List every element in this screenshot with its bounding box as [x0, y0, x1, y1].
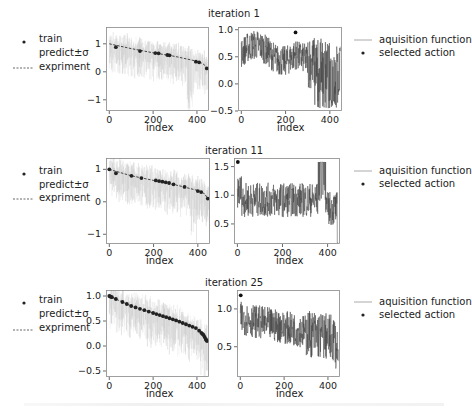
y-tick-label: 0.5 — [214, 218, 229, 229]
line-icon — [353, 300, 373, 304]
row-title-1: iteration 1 — [208, 8, 260, 19]
y-tick-label: 1.0 — [218, 24, 233, 35]
x-axis-label: index — [276, 255, 303, 266]
legend-predict: predict±σ — [39, 308, 89, 319]
legend-selected: selected action — [379, 47, 455, 58]
predict-band — [109, 32, 207, 111]
legend-expriment: expriment — [39, 322, 90, 333]
selected-dot-icon — [359, 180, 367, 188]
row-title-3: iteration 25 — [205, 277, 263, 288]
legend-selected: selected action — [379, 309, 455, 320]
x-axis-label: index — [146, 122, 173, 133]
legend-expriment: expriment — [39, 61, 90, 72]
y-tick-label: 0.5 — [86, 315, 101, 326]
y-tick-label: 0.0 — [86, 340, 101, 351]
y-tick-label: 0.0 — [218, 78, 233, 89]
y-tick-label: 1.5 — [214, 161, 229, 172]
plot-panel-2 — [238, 27, 342, 111]
x-axis-label: index — [146, 255, 173, 266]
y-tick-label: −1 — [87, 228, 101, 239]
plot-panel-4 — [234, 158, 340, 244]
line-icon — [353, 38, 373, 42]
y-tick-label: −0.5 — [78, 365, 101, 376]
selected-action — [236, 160, 240, 164]
predict-band — [109, 158, 208, 244]
dashed-line-icon — [12, 197, 34, 201]
selected-action — [239, 293, 243, 297]
y-tick-label: 1 — [95, 38, 101, 49]
x-tick-label: 0 — [106, 247, 112, 258]
plot-panel-5 — [106, 290, 209, 377]
x-tick-label: 400 — [321, 114, 339, 125]
x-tick-label: 0 — [238, 114, 244, 125]
x-axis-label: index — [146, 388, 173, 399]
legend-aquisition: aquisition function — [379, 34, 472, 45]
legend-aquisition: aquisition function — [379, 165, 472, 176]
train-dot-icon — [20, 299, 28, 307]
x-axis-label: index — [276, 388, 303, 399]
x-tick-label: 0 — [234, 247, 240, 258]
line-icon — [353, 169, 373, 173]
x-tick-label: 0 — [106, 114, 112, 125]
y-tick-label: 0.5 — [218, 51, 233, 62]
legend-selected: selected action — [379, 178, 455, 189]
y-tick-label: 0 — [95, 66, 101, 77]
x-tick-label: 0 — [106, 380, 112, 391]
y-tick-label: 1.0 — [217, 303, 232, 314]
x-tick-label: 400 — [188, 380, 206, 391]
selected-action — [294, 31, 298, 35]
y-tick-label: 1.0 — [214, 189, 229, 200]
legend-predict: predict±σ — [39, 47, 89, 58]
y-tick-label: −0.5 — [210, 105, 233, 116]
x-tick-label: 400 — [319, 380, 337, 391]
x-tick-label: 400 — [188, 114, 206, 125]
legend-train: train — [39, 165, 62, 176]
legend-expriment: expriment — [39, 192, 90, 203]
row-title-2: iteration 11 — [205, 145, 263, 156]
selected-dot-icon — [359, 311, 367, 319]
acquisition-line — [237, 162, 338, 243]
x-tick-label: 400 — [319, 247, 337, 258]
legend-predict: predict±σ — [39, 179, 89, 190]
plot-panel-3 — [106, 158, 210, 244]
y-tick-label: −1 — [87, 94, 101, 105]
plot-panel-1 — [106, 27, 209, 111]
acquisition-line — [240, 302, 338, 369]
y-tick-label: 0.5 — [217, 341, 232, 352]
x-axis-label: index — [277, 122, 304, 133]
selected-dot-icon — [359, 49, 367, 57]
x-tick-label: 400 — [189, 247, 207, 258]
x-tick-label: 0 — [237, 380, 243, 391]
y-tick-label: 1 — [95, 163, 101, 174]
y-tick-label: 1.0 — [86, 290, 101, 301]
train-dot-icon — [20, 38, 28, 46]
cropped-caption — [24, 403, 444, 406]
acquisition-line — [241, 31, 340, 108]
legend-train: train — [39, 33, 62, 44]
legend-aquisition: aquisition function — [379, 296, 472, 307]
legend-train: train — [39, 294, 62, 305]
y-tick-label: 0 — [95, 196, 101, 207]
train-dot-icon — [20, 170, 28, 178]
plot-panel-6 — [237, 290, 340, 377]
dashed-line-icon — [12, 66, 34, 70]
dashed-line-icon — [12, 328, 34, 332]
